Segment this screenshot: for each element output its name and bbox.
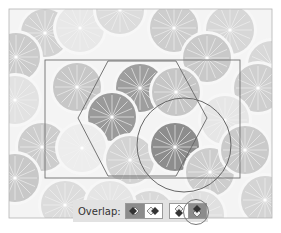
pattern-tiles [0,0,281,233]
stack-bottom-front-icon [174,204,184,218]
overlap-label: Overlap: [78,206,121,217]
stack-top-front-icon [192,204,202,218]
stack-left-front-icon [128,206,142,216]
bottom-in-front-button[interactable] [170,204,188,218]
right-in-front-button[interactable] [144,204,162,218]
top-in-front-button[interactable] [188,204,206,218]
overlap-toolbar: Overlap: [73,200,208,222]
stack-right-front-icon [146,206,160,216]
horizontal-overlap-group [125,203,163,219]
left-in-front-button[interactable] [126,204,144,218]
vertical-overlap-group [169,203,207,219]
pattern-canvas[interactable] [0,0,281,233]
